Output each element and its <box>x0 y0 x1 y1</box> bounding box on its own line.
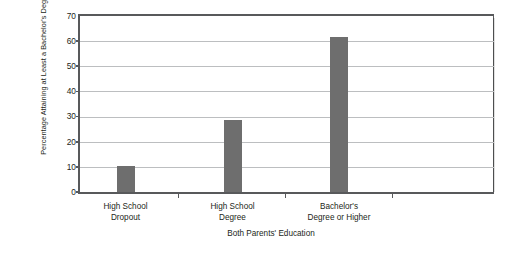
y-tick-label: 0 <box>54 188 76 196</box>
x-tick-mark <box>392 193 393 198</box>
y-tick-label: 10 <box>54 163 76 171</box>
x-axis-title: Both Parents' Education <box>0 229 518 239</box>
y-tick-label: 50 <box>54 62 76 70</box>
x-tick-mark <box>178 193 179 198</box>
bar <box>117 166 135 192</box>
bar <box>330 37 348 192</box>
y-axis-title-line-2: Least a Bachelor's Degree <box>39 0 49 76</box>
plot-area <box>80 16 494 192</box>
gridline <box>80 41 494 42</box>
x-category-label: High SchoolDegree <box>173 201 293 223</box>
x-category-label: Bachelor'sDegree or Higher <box>279 201 399 223</box>
gridline <box>80 66 494 67</box>
y-tick-label: 20 <box>54 138 76 146</box>
x-category-label-line: Degree or Higher <box>279 212 399 223</box>
x-category-label-line: High School <box>173 201 293 212</box>
y-axis-title-line-1: Percentage Attaining at <box>39 78 49 155</box>
bar <box>224 120 242 192</box>
x-category-label: High SchoolDropout <box>66 201 186 223</box>
gridline <box>80 142 494 143</box>
y-tick-label: 70 <box>54 12 76 20</box>
x-category-label-line: High School <box>66 201 186 212</box>
x-category-label-line: Dropout <box>66 212 186 223</box>
x-category-label-line: Bachelor's <box>279 201 399 212</box>
gridline <box>80 117 494 118</box>
gridline <box>80 167 494 168</box>
x-tick-mark <box>285 193 286 198</box>
x-category-label-line: Degree <box>173 212 293 223</box>
y-tick-label: 60 <box>54 37 76 45</box>
bar-chart: Percentage Attaining at Least a Bachelor… <box>0 0 518 253</box>
gridline <box>80 91 494 92</box>
y-tick-label: 40 <box>54 87 76 95</box>
y-tick-label: 30 <box>54 112 76 120</box>
